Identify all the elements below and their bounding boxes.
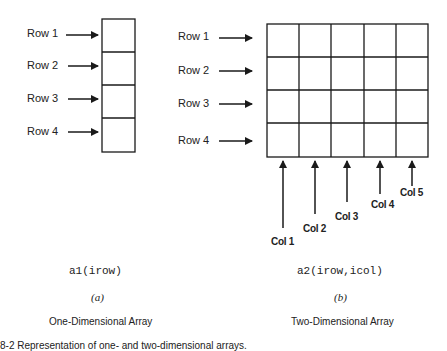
two-d-col-label-1: Col 1 <box>271 236 294 247</box>
two-d-row-arrows <box>219 38 252 141</box>
figure-caption: 8-2 Representation of one- and two-dimen… <box>0 340 247 351</box>
one-d-title: One-Dimensional Array <box>49 316 152 327</box>
two-d-array-grid <box>267 24 428 157</box>
two-d-sublabel: (b) <box>334 291 347 303</box>
two-d-col-label-4: Col 4 <box>371 199 394 210</box>
two-d-row-label-2: Row 2 <box>178 64 209 76</box>
two-d-title: Two-Dimensional Array <box>291 316 394 327</box>
one-d-sublabel: (a) <box>91 291 104 303</box>
one-d-array-grid <box>102 19 135 152</box>
one-d-row-label-2: Row 2 <box>27 59 58 71</box>
one-d-code-label: a1(irow) <box>69 265 122 277</box>
two-d-code-label: a2(irow,icol) <box>297 265 383 277</box>
two-d-row-label-3: Row 3 <box>178 97 209 109</box>
two-d-row-label-1: Row 1 <box>178 30 209 42</box>
one-d-row-label-3: Row 3 <box>27 92 58 104</box>
one-d-row-label-4: Row 4 <box>27 125 58 137</box>
two-d-col-label-3: Col 3 <box>335 211 358 222</box>
two-d-col-label-2: Col 2 <box>303 223 326 234</box>
one-d-row-label-1: Row 1 <box>27 27 58 39</box>
one-d-row-arrows <box>66 35 98 132</box>
two-d-row-label-4: Row 4 <box>178 134 209 146</box>
two-d-col-label-5: Col 5 <box>400 187 423 198</box>
